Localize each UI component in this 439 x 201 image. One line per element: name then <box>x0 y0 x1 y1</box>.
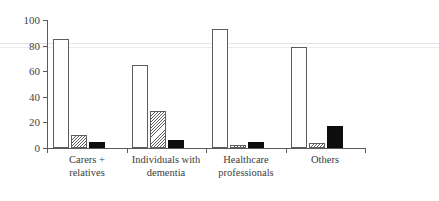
bar <box>212 29 228 148</box>
plot-area: 020406080100 <box>47 20 365 148</box>
y-tick-mark <box>43 122 47 123</box>
y-tick-label: 0 <box>35 143 41 154</box>
x-axis-category-labels: Carers +relativesIndividuals withdementi… <box>47 153 365 199</box>
y-tick-mark <box>43 97 47 98</box>
x-category-label-line: dementia <box>132 166 201 179</box>
y-tick-label: 40 <box>29 91 40 102</box>
x-category-label: Individuals withdementia <box>132 153 201 179</box>
y-tick-label: 20 <box>29 117 40 128</box>
x-tick-mark <box>365 148 366 153</box>
y-tick-mark <box>43 46 47 47</box>
bar <box>89 142 105 148</box>
x-category-label-line: Others <box>311 153 339 166</box>
x-category-label-line: relatives <box>69 166 105 179</box>
x-category-label: Carers +relatives <box>69 153 105 179</box>
x-category-label: Others <box>311 153 339 166</box>
bar <box>230 145 246 148</box>
y-tick-mark <box>43 20 47 21</box>
y-tick-label: 80 <box>29 40 40 51</box>
x-category-label-line: Healthcare <box>218 153 273 166</box>
y-tick-label: 60 <box>29 66 40 77</box>
x-category-label-line: Individuals with <box>132 153 201 166</box>
bar <box>150 111 166 148</box>
bar <box>53 39 69 148</box>
x-category-label: Healthcareprofessionals <box>218 153 273 179</box>
bar <box>309 143 325 148</box>
chart-title-ghost <box>120 0 320 7</box>
bar-chart: 020406080100 Carers +relativesIndividual… <box>0 0 439 201</box>
bar <box>291 47 307 148</box>
x-category-label-line: Carers + <box>69 153 105 166</box>
bar <box>132 65 148 148</box>
bar <box>327 126 343 148</box>
y-tick-mark <box>43 71 47 72</box>
y-tick-label: 100 <box>24 15 41 26</box>
x-category-label-line: professionals <box>218 166 273 179</box>
bar <box>168 140 184 148</box>
bar <box>71 135 87 148</box>
y-axis <box>47 20 48 148</box>
bar <box>248 142 264 148</box>
